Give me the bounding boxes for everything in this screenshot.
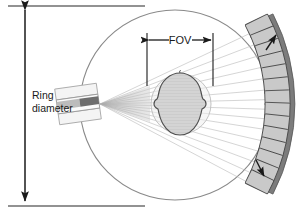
fov-label: FOV — [169, 34, 192, 46]
diagram-canvas: Ring diameter FOV — [0, 0, 306, 211]
fan-beam-cone — [100, 86, 150, 122]
ring-diameter-label-line2: diameter — [32, 102, 73, 114]
ring-diameter-label-line1: Ring — [32, 89, 54, 101]
ct-geometry-diagram: Ring diameter FOV — [0, 0, 306, 211]
